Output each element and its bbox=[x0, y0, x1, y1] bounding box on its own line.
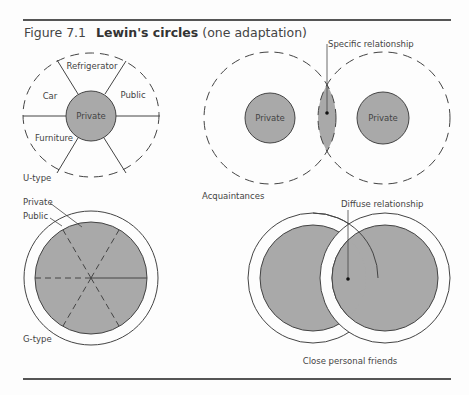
u-type-private-label: Private bbox=[76, 111, 106, 121]
u-type-diagram: Private Refrigerator Public Car Furnitur… bbox=[23, 53, 160, 183]
friends-diagram: Diffuse relationship Close personal frie… bbox=[248, 199, 450, 366]
u-type-sector-car: Car bbox=[43, 91, 58, 101]
acquaintances-diagram: Private Private Specific relationship Ac… bbox=[202, 39, 450, 201]
g-type-diagram: Private Public G-type bbox=[23, 197, 158, 345]
u-type-label: U-type bbox=[23, 173, 51, 183]
g-type-private-label: Private bbox=[23, 197, 53, 207]
bottom-rule bbox=[23, 378, 451, 380]
u-type-sector-public: Public bbox=[120, 90, 145, 100]
u-type-sector-refrigerator: Refrigerator bbox=[67, 61, 118, 71]
diffuse-relationship-dot bbox=[346, 277, 350, 281]
g-type-label: G-type bbox=[23, 334, 52, 344]
acquaintances-label: Acquaintances bbox=[202, 191, 265, 201]
friends-label: Close personal friends bbox=[303, 356, 398, 366]
diffuse-relationship-label: Diffuse relationship bbox=[341, 199, 423, 209]
g-type-public-label: Public bbox=[23, 211, 48, 221]
acquaintance-right-private-label: Private bbox=[368, 113, 398, 123]
u-type-sector-furniture: Furniture bbox=[35, 133, 73, 143]
specific-relationship-label: Specific relationship bbox=[328, 39, 414, 49]
acquaintance-left-private-label: Private bbox=[255, 113, 285, 123]
specific-relationship-dot bbox=[325, 111, 329, 115]
lewin-diagram: Private Refrigerator Public Car Furnitur… bbox=[0, 0, 469, 395]
